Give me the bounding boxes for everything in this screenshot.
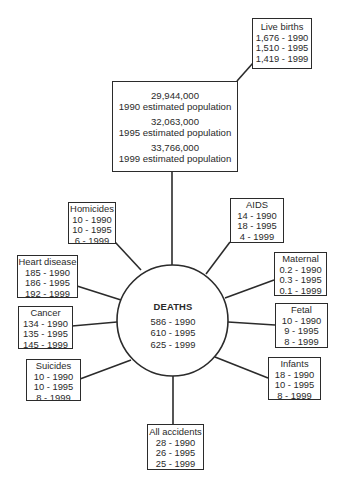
population-1999-label: 1999 estimated population xyxy=(113,153,237,164)
connector-fetal xyxy=(228,322,275,325)
node-value-1999: 6 - 1999 xyxy=(69,236,115,247)
population-1990-label: 1990 estimated population xyxy=(113,101,237,112)
infants-box: Infants 18 - 1990 10 - 1995 8 - 1999 xyxy=(268,357,321,400)
node-title: Homicides xyxy=(69,204,115,215)
node-title: Cancer xyxy=(19,308,72,319)
maternal-box: Maternal 0.2 - 1990 0.3 - 1995 0.1 - 199… xyxy=(274,252,327,296)
live-births-1999: 1,419 - 1999 xyxy=(253,54,311,65)
node-value-1999: 25 - 1999 xyxy=(148,459,203,470)
node-title: AIDS xyxy=(231,200,283,211)
population-1995-label: 1995 estimated population xyxy=(113,127,237,138)
node-value-1999: 4 - 1999 xyxy=(231,232,283,243)
connector-maternal xyxy=(225,280,274,298)
deaths-title: DEATHS xyxy=(117,301,229,313)
deaths-diagram: Live births 1,676 - 1990 1,510 - 1995 1,… xyxy=(0,0,346,483)
population-1990-value: 29,944,000 xyxy=(113,90,237,101)
node-title: Fetal xyxy=(276,305,327,316)
deaths-center: DEATHS 586 - 1990 610 - 1995 625 - 1999 xyxy=(117,265,229,377)
connector-population-live-births xyxy=(237,63,253,81)
node-title: Maternal xyxy=(275,254,326,265)
node-value-1999: 145 - 1999 xyxy=(19,340,72,351)
live-births-box: Live births 1,676 - 1990 1,510 - 1995 1,… xyxy=(252,18,312,69)
connector-heart-disease xyxy=(77,286,121,300)
deaths-1995: 610 - 1995 xyxy=(117,327,229,339)
deaths-1990: 586 - 1990 xyxy=(117,316,229,328)
homicides-box: Homicides 10 - 1990 10 - 1995 6 - 1999 xyxy=(68,202,116,244)
node-value-1999: 0.1 - 1999 xyxy=(275,286,326,297)
node-value-1999: 8 - 1999 xyxy=(276,337,327,348)
node-title: Heart disease xyxy=(18,257,77,268)
node-title: Suicides xyxy=(27,361,80,372)
suicides-box: Suicides 10 - 1990 10 - 1995 8 - 1999 xyxy=(26,359,81,401)
cancer-box: Cancer 134 - 1990 135 - 1995 145 - 1999 xyxy=(18,306,73,349)
live-births-title: Live births xyxy=(253,22,311,33)
aids-box: AIDS 14 - 1990 18 - 1995 4 - 1999 xyxy=(230,198,284,243)
population-box: 29,944,000 1990 estimated population 32,… xyxy=(112,81,238,172)
connector-cancer xyxy=(72,322,117,326)
deaths-1999: 625 - 1999 xyxy=(117,339,229,351)
node-value-1999: 8 - 1999 xyxy=(269,391,320,402)
population-1995-value: 32,063,000 xyxy=(113,116,237,127)
node-value-1999: 8 - 1999 xyxy=(27,393,80,404)
node-title: All accidents xyxy=(148,427,203,438)
node-title: Infants xyxy=(269,359,320,370)
connector-lines xyxy=(0,0,346,483)
all-accidents-box: All accidents 28 - 1990 26 - 1995 25 - 1… xyxy=(147,424,204,470)
heart-disease-box: Heart disease 185 - 1990 186 - 1995 192 … xyxy=(17,255,78,298)
population-1999-value: 33,766,000 xyxy=(113,142,237,153)
node-value-1999: 192 - 1999 xyxy=(18,289,77,300)
fetal-box: Fetal 10 - 1990 9 - 1995 8 - 1999 xyxy=(275,303,328,348)
